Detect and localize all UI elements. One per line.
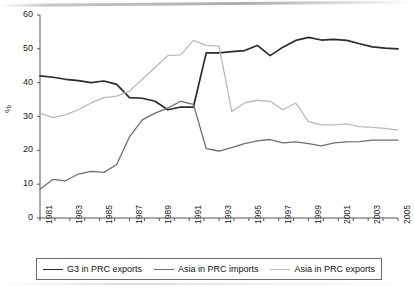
legend-line-swatch bbox=[154, 269, 174, 270]
data-series-group bbox=[40, 37, 398, 189]
legend-line-swatch bbox=[43, 269, 63, 270]
plot-area bbox=[0, 0, 414, 287]
series-line-asia-in-prc-exports bbox=[40, 40, 398, 130]
legend-item[interactable]: Asia in PRC exports bbox=[270, 264, 375, 274]
legend-label: G3 in PRC exports bbox=[67, 264, 142, 274]
legend-item[interactable]: Asia in PRC imports bbox=[154, 264, 259, 274]
series-line-asia-in-prc-imports bbox=[40, 101, 398, 189]
legend-item[interactable]: G3 in PRC exports bbox=[43, 264, 142, 274]
chart-figure: % 0102030405060 198119831985198719891991… bbox=[0, 0, 414, 287]
chart-legend: G3 in PRC exportsAsia in PRC importsAsia… bbox=[36, 258, 382, 280]
legend-line-swatch bbox=[270, 269, 290, 270]
legend-label: Asia in PRC exports bbox=[294, 264, 375, 274]
legend-label: Asia in PRC imports bbox=[178, 264, 259, 274]
